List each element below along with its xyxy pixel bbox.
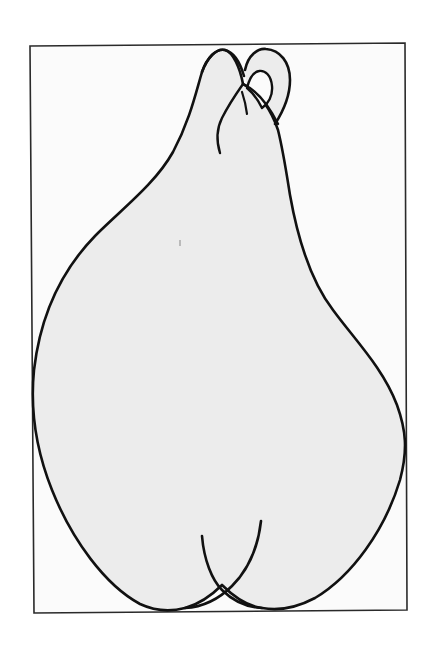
figure-canvas	[0, 0, 437, 650]
pear-figure	[0, 0, 437, 650]
